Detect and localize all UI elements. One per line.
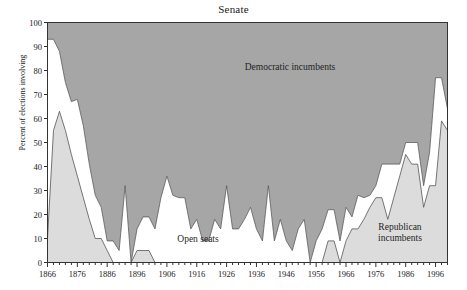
y-tick-label: 100: [29, 18, 42, 28]
x-tick-label: 1996: [427, 269, 444, 279]
y-tick-label: 60: [34, 114, 43, 124]
annotation-republican-incumbents-line2: incumbents: [378, 233, 422, 243]
y-tick-label: 20: [34, 210, 43, 220]
x-tick-label: 1916: [188, 269, 205, 279]
annotation-democratic-incumbents: Democratic incumbents: [245, 62, 336, 72]
x-tick-label: 1986: [397, 269, 414, 279]
y-tick-label: 0: [38, 258, 42, 268]
y-tick-label: 40: [34, 162, 43, 172]
annotation-open-seats: Open seats: [177, 234, 219, 244]
annotation-republican-incumbents-line1: Republican: [378, 222, 422, 232]
y-tick-label: 80: [34, 66, 43, 76]
x-tick-label: 1876: [69, 269, 86, 279]
x-tick-label: 1886: [99, 269, 116, 279]
x-tick-label: 1936: [248, 269, 265, 279]
x-tick-label: 1906: [158, 269, 175, 279]
y-tick-label: 90: [34, 42, 43, 52]
chart-page: Senate Percent of elections involving 01…: [0, 0, 467, 290]
y-tick-label: 50: [34, 138, 43, 148]
x-tick-label: 1966: [338, 269, 355, 279]
x-tick-label: 1956: [308, 269, 325, 279]
y-tick-label: 10: [34, 234, 43, 244]
chart-plot: 0102030405060708090100186618761886189619…: [0, 0, 467, 290]
x-tick-label: 1976: [367, 269, 384, 279]
y-tick-label: 70: [34, 90, 43, 100]
y-tick-label: 30: [34, 186, 43, 196]
x-tick-label: 1926: [218, 269, 235, 279]
x-tick-label: 1896: [129, 269, 146, 279]
x-tick-label: 1946: [278, 269, 295, 279]
x-tick-label: 1866: [39, 269, 56, 279]
